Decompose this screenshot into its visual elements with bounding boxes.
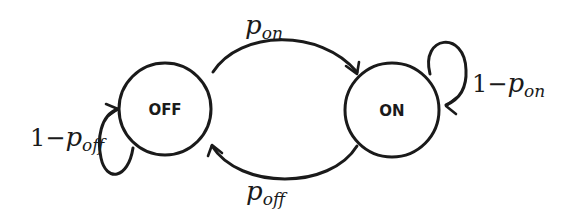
state-off: OFF xyxy=(119,63,211,155)
label-p-off: poff xyxy=(246,176,288,209)
edge-off-to-on xyxy=(213,40,357,72)
arrowhead-on-self-loop xyxy=(446,98,456,114)
edge-on-to-off xyxy=(212,146,357,179)
state-on-label: ON xyxy=(379,102,404,120)
state-off-label: OFF xyxy=(148,101,181,119)
label-one-minus-p-on: 1−pon xyxy=(472,68,545,101)
state-on: ON xyxy=(345,63,439,157)
label-one-minus-p-off: 1−poff xyxy=(30,122,107,155)
label-p-on: pon xyxy=(245,10,283,43)
markov-chain-diagram: OFF ON pon poff 1−pon 1−poff xyxy=(0,0,567,223)
